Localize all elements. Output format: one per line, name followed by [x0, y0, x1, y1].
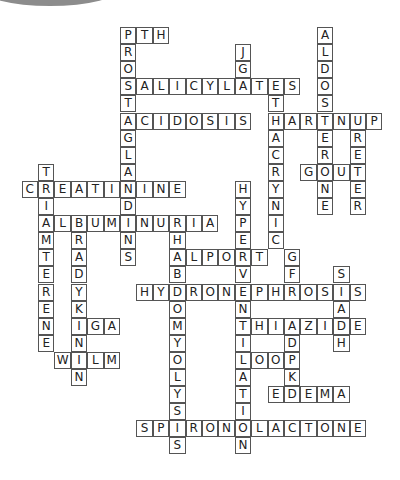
- crossword-cell[interactable]: M: [169, 318, 185, 335]
- crossword-cell[interactable]: S: [136, 420, 152, 437]
- crossword-cell[interactable]: Y: [169, 386, 185, 403]
- crossword-cell[interactable]: T: [136, 27, 152, 44]
- crossword-cell[interactable]: P: [366, 113, 382, 130]
- crossword-cell[interactable]: N: [153, 181, 169, 198]
- crossword-cell[interactable]: E: [169, 181, 185, 198]
- crossword-cell[interactable]: L: [186, 249, 202, 266]
- crossword-cell[interactable]: A: [268, 420, 284, 437]
- crossword-cell[interactable]: C: [136, 113, 152, 130]
- crossword-cell[interactable]: U: [333, 164, 349, 181]
- crossword-cell[interactable]: R: [38, 284, 54, 301]
- crossword-cell[interactable]: S: [317, 95, 333, 112]
- crossword-cell[interactable]: H: [235, 181, 251, 198]
- crossword-cell[interactable]: A: [284, 318, 300, 335]
- crossword-cell[interactable]: K: [71, 301, 87, 318]
- crossword-cell[interactable]: I: [169, 420, 185, 437]
- crossword-cell[interactable]: Y: [153, 284, 169, 301]
- crossword-cell[interactable]: S: [317, 284, 333, 301]
- crossword-cell[interactable]: I: [38, 198, 54, 215]
- crossword-cell[interactable]: A: [284, 113, 300, 130]
- crossword-cell[interactable]: C: [22, 181, 38, 198]
- crossword-cell[interactable]: L: [169, 369, 185, 386]
- crossword-cell[interactable]: Z: [300, 318, 316, 335]
- crossword-cell[interactable]: O: [120, 61, 136, 78]
- crossword-cell[interactable]: B: [169, 266, 185, 283]
- crossword-cell[interactable]: A: [317, 27, 333, 44]
- crossword-cell[interactable]: I: [333, 284, 349, 301]
- crossword-cell[interactable]: R: [169, 215, 185, 232]
- crossword-cell[interactable]: A: [169, 249, 185, 266]
- crossword-cell[interactable]: L: [317, 44, 333, 61]
- crossword-cell[interactable]: S: [169, 437, 185, 454]
- crossword-cell[interactable]: N: [235, 301, 251, 318]
- crossword-cell[interactable]: C: [268, 232, 284, 249]
- crossword-cell[interactable]: E: [235, 284, 251, 301]
- crossword-cell[interactable]: G: [300, 164, 316, 181]
- crossword-cell[interactable]: L: [87, 352, 103, 369]
- crossword-cell[interactable]: T: [300, 420, 316, 437]
- crossword-cell[interactable]: S: [169, 403, 185, 420]
- crossword-cell[interactable]: E: [38, 301, 54, 318]
- crossword-cell[interactable]: D: [120, 198, 136, 215]
- crossword-cell[interactable]: L: [153, 78, 169, 95]
- crossword-cell[interactable]: A: [333, 386, 349, 403]
- crossword-cell[interactable]: E: [54, 181, 70, 198]
- crossword-cell[interactable]: O: [169, 352, 185, 369]
- crossword-cell[interactable]: M: [317, 386, 333, 403]
- crossword-cell[interactable]: I: [317, 318, 333, 335]
- crossword-cell[interactable]: L: [251, 420, 267, 437]
- crossword-cell[interactable]: A: [71, 249, 87, 266]
- crossword-cell[interactable]: E: [38, 335, 54, 352]
- crossword-cell[interactable]: D: [169, 284, 185, 301]
- crossword-cell[interactable]: H: [251, 318, 267, 335]
- crossword-cell[interactable]: S: [333, 266, 349, 283]
- crossword-cell[interactable]: M: [104, 215, 120, 232]
- crossword-cell[interactable]: T: [268, 95, 284, 112]
- crossword-cell[interactable]: R: [38, 181, 54, 198]
- crossword-cell[interactable]: T: [38, 164, 54, 181]
- crossword-cell[interactable]: E: [268, 78, 284, 95]
- crossword-cell[interactable]: E: [268, 386, 284, 403]
- crossword-cell[interactable]: R: [350, 130, 366, 147]
- crossword-cell[interactable]: R: [186, 284, 202, 301]
- crossword-cell[interactable]: O: [251, 352, 267, 369]
- crossword-cell[interactable]: E: [350, 318, 366, 335]
- crossword-cell[interactable]: E: [317, 130, 333, 147]
- crossword-cell[interactable]: M: [104, 352, 120, 369]
- crossword-cell[interactable]: O: [202, 284, 218, 301]
- crossword-cell[interactable]: O: [317, 78, 333, 95]
- crossword-cell[interactable]: R: [235, 249, 251, 266]
- crossword-cell[interactable]: E: [350, 181, 366, 198]
- crossword-cell[interactable]: S: [235, 113, 251, 130]
- crossword-cell[interactable]: H: [169, 232, 185, 249]
- crossword-cell[interactable]: S: [202, 113, 218, 130]
- crossword-cell[interactable]: R: [300, 113, 316, 130]
- crossword-cell[interactable]: T: [251, 78, 267, 95]
- crossword-cell[interactable]: N: [333, 113, 349, 130]
- crossword-cell[interactable]: S: [120, 249, 136, 266]
- crossword-cell[interactable]: T: [87, 181, 103, 198]
- crossword-cell[interactable]: Y: [169, 335, 185, 352]
- crossword-cell[interactable]: S: [120, 78, 136, 95]
- crossword-cell[interactable]: A: [202, 215, 218, 232]
- crossword-cell[interactable]: C: [284, 420, 300, 437]
- crossword-cell[interactable]: P: [120, 27, 136, 44]
- crossword-cell[interactable]: J: [235, 44, 251, 61]
- crossword-cell[interactable]: I: [169, 78, 185, 95]
- crossword-cell[interactable]: U: [153, 215, 169, 232]
- crossword-cell[interactable]: E: [300, 386, 316, 403]
- crossword-cell[interactable]: D: [333, 318, 349, 335]
- crossword-cell[interactable]: R: [317, 147, 333, 164]
- crossword-cell[interactable]: T: [235, 386, 251, 403]
- crossword-cell[interactable]: C: [186, 78, 202, 95]
- crossword-cell[interactable]: D: [71, 266, 87, 283]
- crossword-cell[interactable]: I: [235, 403, 251, 420]
- crossword-cell[interactable]: R: [186, 420, 202, 437]
- crossword-cell[interactable]: L: [218, 78, 234, 95]
- crossword-cell[interactable]: H: [153, 27, 169, 44]
- crossword-cell[interactable]: I: [104, 181, 120, 198]
- crossword-cell[interactable]: N: [71, 369, 87, 386]
- crossword-cell[interactable]: I: [136, 181, 152, 198]
- crossword-cell[interactable]: I: [268, 318, 284, 335]
- crossword-cell[interactable]: R: [284, 284, 300, 301]
